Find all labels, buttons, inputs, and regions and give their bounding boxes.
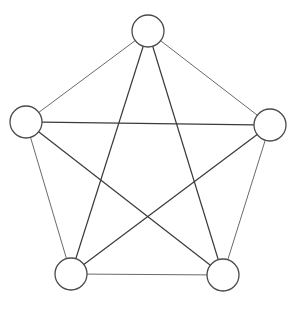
- edge-left-right: [42, 122, 254, 125]
- edge-bottom-left-bottom-right: [87, 274, 207, 275]
- edge-top-left: [39, 41, 135, 113]
- complete-graph-k5: [0, 0, 297, 311]
- node-top: [132, 15, 164, 47]
- node-bottom-right: [207, 259, 239, 291]
- node-right: [254, 109, 286, 141]
- edge-top-right: [161, 41, 258, 115]
- edge-right-bottom-left: [84, 135, 257, 265]
- node-bottom-left: [55, 258, 87, 290]
- nodes-group: [10, 15, 286, 291]
- edge-right-bottom-right: [228, 140, 265, 259]
- node-left: [10, 106, 42, 138]
- edges-group: [31, 41, 266, 275]
- edge-left-bottom-left: [31, 137, 67, 258]
